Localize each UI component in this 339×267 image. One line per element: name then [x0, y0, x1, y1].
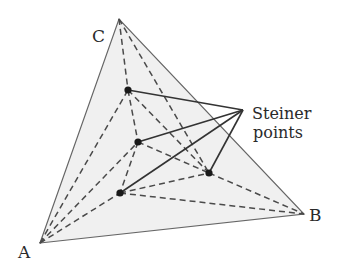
steiner-point-2: [134, 138, 141, 145]
steiner-point-3: [205, 169, 212, 176]
callout-label-line1: Steiner: [252, 104, 312, 123]
steiner-point-1: [124, 86, 131, 93]
vertex-label-b: B: [309, 205, 322, 225]
steiner-diagram: C A B Steiner points: [0, 0, 339, 267]
vertex-label-a: A: [17, 242, 31, 262]
vertex-label-c: C: [92, 26, 105, 46]
steiner-point-4: [116, 189, 123, 196]
callout-label-line2: points: [253, 123, 303, 142]
